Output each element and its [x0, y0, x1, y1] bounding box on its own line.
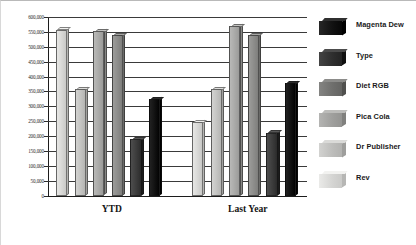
y-axis-tick — [44, 136, 48, 137]
y-axis-tick-label: 350,000 — [28, 88, 44, 94]
y-axis-tick — [44, 17, 48, 18]
legend-item-label: Magenta Dew — [356, 20, 404, 29]
bar — [266, 133, 279, 196]
legend-item: Magenta Dew — [319, 15, 415, 46]
bar — [149, 99, 162, 196]
legend-item: Type — [319, 46, 415, 77]
y-axis-tick-label: 250,000 — [28, 118, 44, 124]
bar — [130, 139, 143, 196]
chart-frame: 600,000550,000500,000450,000400,000350,0… — [0, 0, 416, 245]
legend-swatch-front — [319, 113, 342, 127]
bar — [112, 35, 125, 196]
bar-front-face — [211, 89, 222, 196]
y-axis-tick-labels: 600,000550,000500,000450,000400,000350,0… — [1, 17, 44, 197]
bar — [229, 26, 242, 196]
y-axis-tick-label: 400,000 — [28, 74, 44, 80]
bar-front-face — [93, 31, 104, 195]
legend-item: Rev — [319, 168, 415, 199]
legend-swatch-front — [319, 52, 342, 66]
y-axis-tick-label: 100,000 — [28, 163, 44, 169]
bar — [192, 122, 205, 196]
y-axis-tick-label: 450,000 — [28, 59, 44, 65]
chart-legend: Magenta DewTypeDiet RGBPica ColaDr Publi… — [319, 15, 415, 198]
legend-color-swatch — [319, 79, 346, 96]
legend-swatch-side — [342, 19, 346, 35]
x-axis-category-label: YTD — [102, 203, 122, 214]
y-axis-tick — [44, 196, 48, 197]
y-axis-tick — [44, 32, 48, 33]
legend-item-label: Dr Publisher — [356, 142, 401, 151]
y-axis-tick — [44, 121, 48, 122]
bar — [93, 31, 106, 195]
legend-swatch-side — [342, 141, 346, 157]
y-axis-tick — [44, 181, 48, 182]
y-axis-tick — [44, 62, 48, 63]
legend-swatch-front — [319, 143, 342, 157]
y-axis-tick — [44, 151, 48, 152]
bar-front-face — [56, 30, 67, 196]
y-axis-tick-label: 150,000 — [28, 148, 44, 154]
y-axis-tick-label: 550,000 — [28, 29, 44, 35]
y-axis-tick — [44, 47, 48, 48]
x-axis-category-label: Last Year — [228, 203, 267, 214]
plot-area — [48, 17, 307, 197]
bar — [56, 30, 69, 196]
legend-item: Diet RGB — [319, 76, 415, 107]
legend-color-swatch — [319, 49, 346, 66]
legend-item-label: Pica Cola — [356, 112, 390, 121]
bar-front-face — [149, 99, 160, 196]
bar-front-face — [192, 122, 203, 196]
bar-front-face — [266, 133, 277, 196]
bar-front-face — [285, 83, 296, 196]
legend-swatch-front — [319, 21, 342, 35]
bar-front-face — [229, 26, 240, 196]
y-axis-tick — [44, 91, 48, 92]
bar-front-face — [112, 35, 123, 196]
legend-color-swatch — [319, 18, 346, 35]
y-axis-tick — [44, 166, 48, 167]
y-axis-tick-label: 600,000 — [28, 14, 44, 20]
bar — [285, 83, 298, 196]
legend-color-swatch — [319, 171, 346, 188]
bar-group — [192, 17, 304, 196]
legend-swatch-side — [342, 80, 346, 96]
bar — [75, 89, 88, 196]
legend-item-label: Type — [356, 51, 373, 60]
legend-item: Dr Publisher — [319, 137, 415, 168]
bar — [211, 89, 224, 196]
y-axis-tick — [44, 106, 48, 107]
bar-front-face — [130, 139, 141, 196]
legend-color-swatch — [319, 110, 346, 127]
y-axis-tick-label: 300,000 — [28, 103, 44, 109]
x-axis-line — [48, 196, 307, 197]
bar — [248, 35, 261, 196]
legend-item-label: Rev — [356, 173, 370, 182]
legend-item: Pica Cola — [319, 107, 415, 138]
y-axis-tick-label: 50,000 — [31, 178, 44, 184]
legend-item-label: Diet RGB — [356, 81, 389, 90]
y-axis-tick-label: 200,000 — [28, 133, 44, 139]
bar-group — [56, 17, 168, 196]
y-axis-tick-label: 500,000 — [28, 44, 44, 50]
bar-front-face — [75, 89, 86, 196]
legend-color-swatch — [319, 140, 346, 157]
y-axis-tick — [44, 77, 48, 78]
legend-swatch-front — [319, 82, 342, 96]
bar-front-face — [248, 35, 259, 196]
legend-swatch-front — [319, 174, 342, 188]
